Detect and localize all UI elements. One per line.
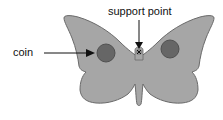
support-point-label: support point: [108, 6, 172, 17]
support-point-marker: [136, 49, 142, 55]
support-arrow-icon: [135, 20, 143, 49]
left-coin: [97, 44, 115, 62]
coin-label: coin: [13, 47, 33, 58]
coin-arrow-icon: [44, 49, 95, 57]
right-coin: [161, 40, 179, 58]
butterfly-diagram: [0, 0, 223, 120]
